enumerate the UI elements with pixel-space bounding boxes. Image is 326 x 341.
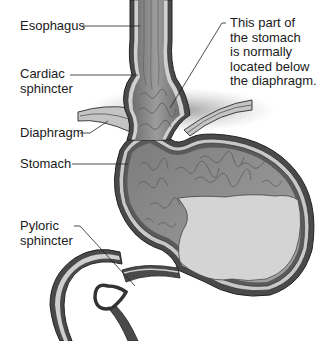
- duodenum: [50, 250, 180, 341]
- label-cardiac-sphincter: Cardiac sphincter: [20, 67, 73, 96]
- label-pyloric-line1: Pyloric: [20, 219, 73, 234]
- label-esophagus: Esophagus: [20, 19, 85, 34]
- label-diaphragm: Diaphragm: [20, 126, 84, 141]
- label-herniated-note: This part of the stomach is normally loc…: [230, 16, 317, 89]
- label-stomach: Stomach: [20, 157, 71, 172]
- note-line5: the diaphragm.: [230, 74, 317, 89]
- label-cardiac-line2: sphincter: [20, 82, 73, 97]
- note-line1: This part of: [230, 16, 317, 31]
- note-line4: located below: [230, 60, 317, 75]
- note-line2: the stomach: [230, 31, 317, 46]
- label-cardiac-line1: Cardiac: [20, 67, 73, 82]
- note-line3: is normally: [230, 45, 317, 60]
- diaphragm-left: [78, 107, 133, 133]
- label-pyloric-sphincter: Pyloric sphincter: [20, 219, 73, 248]
- esophagus: [124, 0, 190, 140]
- label-pyloric-line2: sphincter: [20, 234, 73, 249]
- stomach-contents: [178, 195, 301, 281]
